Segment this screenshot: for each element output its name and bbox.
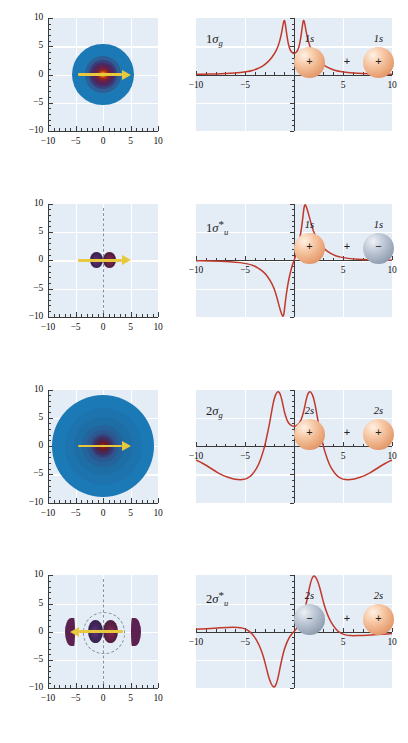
atomic-orbital-label-left: 2s xyxy=(294,405,325,416)
orbital-sign-right: + xyxy=(363,426,394,438)
mo-label-subscript: g xyxy=(218,38,222,48)
atomic-orbital-label-right: 1s xyxy=(363,219,394,230)
orbital-row: −10−505101050−5−10−10−55101σg+1s+1s+ xyxy=(0,0,408,186)
combination-operator: + xyxy=(331,426,363,438)
orbital-sign-left: + xyxy=(294,426,325,438)
orbital-row: −10−505101050−5−10−10−55101σ*u+1s−1s+ xyxy=(0,186,408,372)
mo-label: 2σg xyxy=(206,404,223,420)
orbital-row: −10−505101050−5−10−10−55102σ*u−2s+2s+ xyxy=(0,557,408,743)
combination-operator: + xyxy=(331,612,363,624)
internuclear-axis-arrow xyxy=(78,73,122,76)
atomic-orbital-label-right: 2s xyxy=(363,590,394,601)
mo-label-subscript: u xyxy=(224,598,228,608)
combination-operator: + xyxy=(331,55,363,67)
mo-label-subscript: u xyxy=(224,226,228,236)
orbital-row: −10−505101050−5−10−10−55102σg+2s+2s+ xyxy=(0,372,408,558)
atomic-orbital-label-right: 1s xyxy=(363,33,394,44)
molecular-orbital-figure: −10−505101050−5−10−10−55101σg+1s+1s+−10−… xyxy=(0,0,408,743)
atomic-orbital-label-left: 1s xyxy=(294,219,325,230)
orbital-sign-right: + xyxy=(363,612,394,624)
internuclear-axis-arrow xyxy=(78,445,122,448)
internuclear-axis-arrow xyxy=(78,259,122,262)
arrow-head-icon xyxy=(122,70,131,80)
wavefunction-curve xyxy=(0,0,408,186)
atomic-orbital-label-right: 2s xyxy=(363,405,394,416)
wavefunction-curve xyxy=(0,186,408,372)
mo-label: 1σg xyxy=(206,32,223,48)
atomic-orbital-label-left: 2s xyxy=(294,590,325,601)
mo-label: 2σ*u xyxy=(206,589,228,608)
mo-label-subscript: g xyxy=(218,409,222,419)
orbital-sign-right: − xyxy=(363,240,394,252)
arrow-head-icon xyxy=(70,627,79,637)
atomic-orbital-label-left: 1s xyxy=(294,33,325,44)
orbital-sign-right: + xyxy=(363,55,394,67)
orbital-sign-left: + xyxy=(294,55,325,67)
orbital-sign-left: − xyxy=(294,612,325,624)
wavefunction-curve xyxy=(0,557,408,743)
orbital-sign-left: + xyxy=(294,240,325,252)
mo-label: 1σ*u xyxy=(206,218,228,237)
wavefunction-curve xyxy=(0,372,408,558)
combination-operator: + xyxy=(331,240,363,252)
arrow-head-icon xyxy=(122,441,131,451)
arrow-head-icon xyxy=(122,255,131,265)
internuclear-axis-arrow xyxy=(79,630,123,633)
